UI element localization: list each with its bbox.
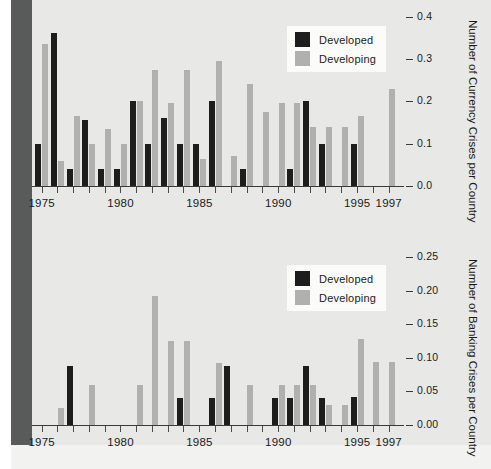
legend-swatch-developed bbox=[295, 32, 310, 47]
bar-developing-1985 bbox=[200, 159, 206, 187]
x-tick-1988 bbox=[247, 187, 248, 193]
y-tick-0.3 bbox=[406, 59, 413, 60]
bar-developing-1989 bbox=[263, 112, 269, 186]
banking-crises-y-axis-title: Number of Banking Crises per Country bbox=[466, 259, 480, 449]
x-axis-label-1985: 1985 bbox=[186, 197, 212, 209]
bar-developing-1983 bbox=[168, 341, 174, 425]
bar-developing-1997 bbox=[389, 89, 395, 187]
x-axis-label-1995: 1995 bbox=[344, 436, 370, 448]
legend-row-developed: Developed bbox=[295, 271, 376, 286]
x-tick-1985 bbox=[199, 187, 200, 193]
y-tick-0.1 bbox=[406, 144, 413, 145]
bar-developed-1977 bbox=[67, 366, 73, 425]
bar-developed-1978 bbox=[82, 120, 88, 186]
y-axis-label-0.1: 0.1 bbox=[417, 137, 432, 149]
bar-developing-1983 bbox=[168, 103, 174, 186]
x-axis-label-1980: 1980 bbox=[107, 197, 133, 209]
x-tick-1985 bbox=[199, 426, 200, 432]
x-tick-1979 bbox=[105, 426, 106, 432]
y-tick-0.20 bbox=[406, 291, 413, 292]
bar-developing-1979 bbox=[105, 129, 111, 186]
y-tick-0.4 bbox=[406, 17, 413, 18]
x-tick-1991 bbox=[294, 426, 295, 432]
bar-developed-1986 bbox=[209, 101, 215, 186]
bar-developed-1982 bbox=[145, 144, 151, 186]
bar-developing-1984 bbox=[184, 341, 190, 425]
bar-developed-1979 bbox=[98, 169, 104, 186]
y-tick-0.15 bbox=[406, 324, 413, 325]
y-axis-label-0.3: 0.3 bbox=[417, 52, 432, 64]
bar-developed-1984 bbox=[177, 144, 183, 186]
x-tick-1980 bbox=[120, 187, 121, 193]
x-tick-1976 bbox=[57, 187, 58, 193]
bar-developed-1985 bbox=[193, 144, 199, 186]
bar-developing-1986 bbox=[216, 61, 222, 186]
y-tick-0.00 bbox=[406, 425, 413, 426]
x-tick-1984 bbox=[183, 426, 184, 432]
legend-row-developing: Developing bbox=[295, 51, 376, 66]
x-tick-1994 bbox=[341, 426, 342, 432]
x-tick-1991 bbox=[294, 187, 295, 193]
x-tick-1994 bbox=[341, 187, 342, 193]
bar-developing-1978 bbox=[89, 144, 95, 186]
bar-developing-1991 bbox=[294, 385, 300, 425]
legend-row-developed: Developed bbox=[295, 32, 376, 47]
bar-developing-1987 bbox=[231, 156, 237, 186]
x-axis-line bbox=[32, 425, 404, 426]
x-axis-label-1990: 1990 bbox=[265, 436, 291, 448]
y-axis-label-0.25: 0.25 bbox=[417, 250, 438, 262]
bar-developing-1995 bbox=[358, 339, 364, 425]
x-axis-label-1997: 1997 bbox=[376, 436, 402, 448]
x-axis-label-1990: 1990 bbox=[265, 197, 291, 209]
currency-crises-legend: Developed Developing bbox=[287, 26, 386, 72]
legend-swatch-developed bbox=[295, 271, 310, 286]
bar-developing-1994 bbox=[342, 405, 348, 425]
x-tick-1982 bbox=[152, 187, 153, 193]
x-tick-1990 bbox=[278, 187, 279, 193]
bar-developed-1976 bbox=[51, 33, 57, 186]
x-axis-label-1975: 1975 bbox=[28, 436, 54, 448]
y-axis-label-0.2: 0.2 bbox=[417, 94, 432, 106]
bar-developed-1995 bbox=[351, 144, 357, 186]
bar-developed-1995 bbox=[351, 397, 357, 425]
x-tick-1997 bbox=[389, 426, 390, 432]
y-axis-label-0.10: 0.10 bbox=[417, 351, 438, 363]
bar-developing-1995 bbox=[358, 116, 364, 186]
y-tick-0.10 bbox=[406, 358, 413, 359]
bar-developing-1997 bbox=[389, 362, 395, 425]
legend-label-developed: Developed bbox=[319, 273, 373, 285]
x-tick-1975 bbox=[42, 187, 43, 193]
legend-label-developing: Developing bbox=[319, 292, 376, 304]
x-tick-1992 bbox=[310, 426, 311, 432]
bar-developed-1984 bbox=[177, 398, 183, 425]
bar-developing-1980 bbox=[121, 144, 127, 186]
bar-developing-1976 bbox=[58, 161, 64, 186]
x-axis-label-1995: 1995 bbox=[344, 197, 370, 209]
bar-developed-1993 bbox=[319, 398, 325, 425]
x-axis-label-1985: 1985 bbox=[186, 436, 212, 448]
banking-crises-chart: 1975198019851990199519970.000.050.100.15… bbox=[32, 247, 481, 459]
y-tick-0.2 bbox=[406, 101, 413, 102]
x-tick-1983 bbox=[168, 426, 169, 432]
x-axis-label-1997: 1997 bbox=[376, 197, 402, 209]
bar-developing-1977 bbox=[74, 116, 80, 186]
x-tick-1988 bbox=[247, 426, 248, 432]
bar-developed-1993 bbox=[319, 144, 325, 186]
x-tick-1978 bbox=[89, 426, 90, 432]
banking-crises-legend: Developed Developing bbox=[287, 265, 386, 311]
bar-developed-1987 bbox=[224, 366, 230, 425]
x-tick-1993 bbox=[325, 426, 326, 432]
bar-developing-1994 bbox=[342, 127, 348, 186]
x-tick-1989 bbox=[262, 187, 263, 193]
bar-developed-1986 bbox=[209, 398, 215, 425]
bar-developing-1975 bbox=[42, 44, 48, 186]
x-tick-1993 bbox=[325, 187, 326, 193]
bar-developed-1981 bbox=[130, 101, 136, 186]
legend-label-developed: Developed bbox=[319, 34, 373, 46]
bar-developing-1982 bbox=[152, 70, 158, 187]
legend-row-developing: Developing bbox=[295, 290, 376, 305]
bar-developed-1992 bbox=[303, 366, 309, 425]
bar-developed-1977 bbox=[67, 169, 73, 186]
y-axis-label-0.4: 0.4 bbox=[417, 10, 432, 22]
x-tick-1992 bbox=[310, 187, 311, 193]
